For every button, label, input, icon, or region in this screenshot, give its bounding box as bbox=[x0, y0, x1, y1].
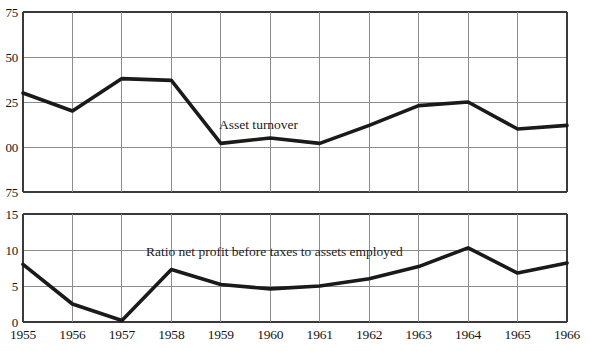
x-tick-1964: 1964 bbox=[446, 328, 490, 341]
chart-figure: 7550250075 151050 1955195619571958195919… bbox=[0, 0, 594, 351]
x-tick-1960: 1960 bbox=[248, 328, 292, 341]
x-tick-1955: 1955 bbox=[1, 328, 45, 341]
x-tick-1963: 1963 bbox=[397, 328, 441, 341]
bottom-chart-gridlines bbox=[23, 214, 567, 322]
top-chart-gridlines bbox=[23, 12, 567, 192]
x-tick-1957: 1957 bbox=[100, 328, 144, 341]
y-tick-bottom-10: 10 bbox=[0, 244, 18, 257]
y-tick-bottom-5: 5 bbox=[0, 280, 18, 293]
x-tick-1959: 1959 bbox=[199, 328, 243, 341]
x-tick-1966: 1966 bbox=[545, 328, 589, 341]
y-tick-top-75: 75 bbox=[0, 6, 18, 19]
x-tick-1958: 1958 bbox=[149, 328, 193, 341]
y-tick-top-75: 75 bbox=[0, 186, 18, 199]
x-tick-1965: 1965 bbox=[496, 328, 540, 341]
asset-turnover-line bbox=[23, 79, 567, 144]
x-tick-1961: 1961 bbox=[298, 328, 342, 341]
x-tick-1962: 1962 bbox=[347, 328, 391, 341]
y-tick-top-00: 00 bbox=[0, 141, 18, 154]
y-tick-top-50: 50 bbox=[0, 51, 18, 64]
profit-ratio-label: Ratio net profit before taxes to assets … bbox=[146, 245, 403, 259]
x-tick-1956: 1956 bbox=[50, 328, 94, 341]
y-tick-top-25: 25 bbox=[0, 96, 18, 109]
asset-turnover-label: Asset turnover bbox=[219, 118, 298, 132]
y-tick-bottom-15: 15 bbox=[0, 208, 18, 221]
chart-canvas bbox=[0, 0, 594, 351]
